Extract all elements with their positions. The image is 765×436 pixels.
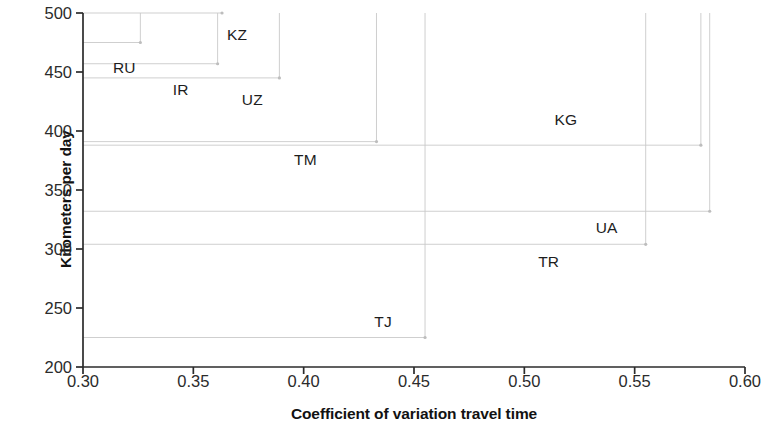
data-point-label-ua: UA [596, 219, 618, 237]
data-point-marker [708, 210, 711, 213]
data-point-marker [644, 243, 647, 246]
data-point-label-uz: UZ [242, 91, 263, 109]
data-point-marker [375, 140, 378, 143]
data-point-marker [216, 62, 219, 65]
chart-figure: Kilometers per day Coefficient of variat… [0, 0, 765, 436]
data-point-marker [423, 336, 426, 339]
guide-line-group [83, 11, 711, 339]
tick-mark-group [76, 13, 745, 374]
data-point-label-tm: TM [294, 151, 317, 169]
data-point-label-kg: KG [554, 111, 577, 129]
data-point-label-ir: IR [173, 81, 189, 99]
data-point-marker [139, 41, 142, 44]
data-point-label-tr: TR [538, 253, 559, 271]
data-point-marker [220, 11, 223, 14]
data-point-label-tj: TJ [374, 313, 392, 331]
data-point-label-ru: RU [113, 59, 136, 77]
data-point-label-kz: KZ [227, 26, 247, 44]
data-point-marker [278, 76, 281, 79]
data-point-marker [699, 144, 702, 147]
